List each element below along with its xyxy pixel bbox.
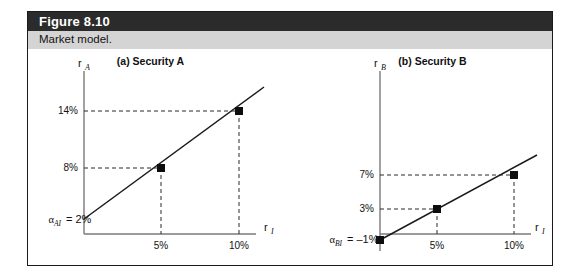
y-axis-label-b: r [374,57,378,69]
alpha-subscript-a: AI [53,219,62,228]
y-axis-label-sub-a: A [84,63,90,72]
ytick-label-a-8pct: 8% [64,162,79,173]
y-axis-label-sub-b: B [381,63,386,72]
figure-header-bar: Figure 8.10 [28,12,552,31]
chart-svg-security-b: 7% 3% 5% 10% r B r I α BI = –1% [313,49,552,267]
x-axis-label-a: r [264,221,268,233]
xtick-label-b-5pct: 5% [430,240,445,251]
alpha-value-a: = 2% [66,213,92,225]
y-axis-label-a: r [78,57,82,69]
x-axis-label-sub-b: I [541,227,545,236]
figure-number: Figure 8.10 [39,14,110,29]
data-point-a-10pct [236,108,243,115]
x-axis-label-sub-a: I [270,227,274,236]
market-model-line-a [84,87,264,219]
figure-caption: Market model. [39,33,112,45]
xtick-label-b-10pct: 10% [504,240,524,251]
data-point-b-10pct [511,172,518,179]
data-point-a-5pct [158,165,165,172]
figure-caption-bar: Market model. [28,31,552,49]
ytick-label-b-3pct: 3% [360,203,375,214]
chart-svg-security-a: 14% 8% 5% 10% r A r I α AI = 2% [28,49,313,267]
xtick-label-a-5pct: 5% [154,240,169,251]
alpha-value-b: = –1% [347,233,379,245]
figure-frame: Figure 8.10 Market model. (a) Security A [27,11,553,266]
x-axis-label-b: r [535,221,539,233]
chart-panel-security-b: (b) Security B 7% 3% [313,49,552,265]
data-point-b-5pct [434,206,441,213]
plot-area: (a) Security A 14% 8% [28,49,552,265]
ytick-label-a-14pct: 14% [58,105,78,116]
ytick-label-b-7pct: 7% [360,169,375,180]
chart-panel-security-a: (a) Security A 14% 8% [28,49,313,265]
market-model-line-b [380,155,537,240]
alpha-subscript-b: BI [335,239,343,248]
xtick-label-a-10pct: 10% [229,240,249,251]
